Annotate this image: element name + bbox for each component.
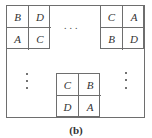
cell-bottom-center-2: B	[79, 74, 101, 96]
vertical-ellipsis-left-icon	[26, 72, 30, 92]
cell-top-left-2: D	[29, 6, 51, 28]
cell-top-left-1: B	[7, 6, 29, 28]
horizontal-ellipsis-icon: ...	[64, 20, 81, 31]
cell-top-left-4: C	[29, 28, 51, 50]
vertical-ellipsis-right-icon	[125, 72, 129, 92]
block-top-right: C A B D	[100, 5, 144, 49]
figure-caption: (b)	[0, 124, 152, 136]
cell-bottom-center-4: A	[79, 96, 101, 118]
cell-top-right-4: D	[123, 28, 145, 50]
cell-top-right-2: A	[123, 6, 145, 28]
block-bottom-center: C B D A	[56, 73, 100, 117]
cell-top-right-3: B	[101, 28, 123, 50]
block-top-left: B D A C	[6, 5, 50, 49]
cell-bottom-center-1: C	[57, 74, 79, 96]
cell-bottom-center-3: D	[57, 96, 79, 118]
cell-top-right-1: C	[101, 6, 123, 28]
cell-top-left-3: A	[7, 28, 29, 50]
